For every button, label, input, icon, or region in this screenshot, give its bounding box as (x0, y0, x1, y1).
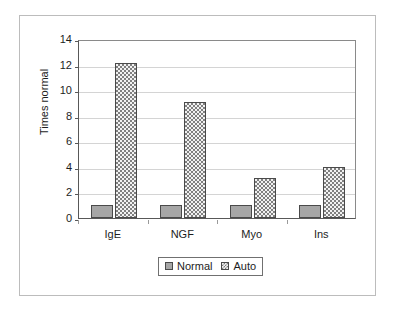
x-axis-tick-label-ins: Ins (287, 228, 357, 240)
y-axis-tick-label: 0 (42, 213, 72, 224)
figure: Times normal 02468101214 IgENGFMyoIns No… (0, 0, 399, 310)
bar-ige-auto (115, 63, 137, 218)
y-axis-tick-label: 8 (42, 111, 72, 122)
legend-entry-normal: Normal (165, 260, 212, 272)
y-axis-tick-label: 12 (42, 60, 72, 71)
legend-label: Auto (233, 260, 256, 272)
bar-ins-auto (323, 167, 345, 218)
y-axis-tick-label: 6 (42, 136, 72, 147)
bar-ngf-auto (184, 102, 206, 218)
legend-label: Normal (177, 260, 212, 272)
bar-myo-auto (254, 178, 276, 218)
x-axis-tick-mark (217, 220, 218, 224)
x-axis-tick-label-ige: IgE (78, 228, 148, 240)
x-axis-tick-mark (287, 220, 288, 224)
bar-ngf-normal (160, 205, 182, 218)
y-axis-tick-label: 4 (42, 162, 72, 173)
x-axis-tick-mark (78, 220, 79, 224)
y-axis-tick-label: 2 (42, 187, 72, 198)
bar-group (288, 41, 358, 218)
auto-swatch (221, 262, 229, 270)
x-axis-tick-label-myo: Myo (217, 228, 287, 240)
x-axis-tick-labels: IgENGFMyoIns (78, 228, 356, 244)
legend-entry-auto: Auto (221, 260, 256, 272)
bar-ins-normal (299, 205, 321, 218)
bar-group (149, 41, 219, 218)
bar-ige-normal (91, 205, 113, 218)
bar-group (79, 41, 149, 218)
plot-area (78, 40, 356, 219)
bar-myo-normal (230, 205, 252, 218)
x-axis-tick-mark (148, 220, 149, 224)
y-axis-tick-labels: 02468101214 (40, 40, 72, 219)
legend: NormalAuto (158, 257, 263, 276)
normal-swatch (165, 262, 173, 270)
y-axis-tick-label: 14 (42, 34, 72, 45)
x-axis-tick-marks (78, 220, 356, 225)
x-axis-tick-label-ngf: NGF (148, 228, 218, 240)
bar-group (218, 41, 288, 218)
y-axis-tick-label: 10 (42, 85, 72, 96)
